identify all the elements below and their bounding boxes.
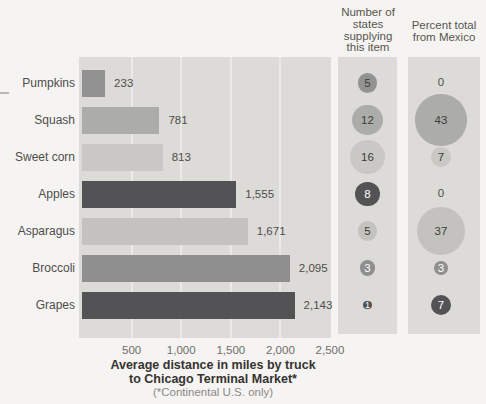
axis-tick: 2,000: [255, 344, 305, 356]
states-bubble: 5: [358, 73, 377, 92]
distance-value: 2,143: [304, 298, 333, 312]
states-bubble: 12: [352, 105, 382, 135]
distance-bar: [82, 107, 159, 134]
states-header-line: this item: [328, 42, 408, 54]
row-label: Broccoli: [0, 260, 75, 276]
row-label: Asparagus: [0, 223, 75, 239]
distance-value: 233: [114, 76, 133, 90]
states-column-header: Number of states supplying this item: [328, 7, 408, 54]
distance-bar: [82, 292, 295, 319]
distance-value: 1,555: [245, 187, 274, 201]
mexico-bubble-zero: 0: [421, 76, 461, 88]
axis-title-block: Average distance in miles by truck to Ch…: [58, 359, 368, 399]
mexico-bubble: 3: [434, 261, 448, 275]
mexico-bubble: 43: [415, 94, 466, 145]
distance-bar: [82, 218, 248, 245]
axis-tick: 1,500: [206, 344, 256, 356]
distance-bar: [82, 144, 163, 171]
mexico-header-line: from Mexico: [404, 32, 484, 44]
mexico-column-header: Percent total from Mexico: [404, 20, 484, 44]
states-bubble: 16: [350, 140, 385, 175]
row-label: Sweet corn: [0, 149, 75, 165]
distance-bar: [82, 70, 105, 97]
chart-footnote: (*Continental U.S. only): [58, 386, 368, 399]
distance-value: 1,671: [257, 224, 286, 238]
distance-bar: [82, 255, 290, 282]
distance-value: 781: [168, 113, 187, 127]
states-bubble: 8: [355, 182, 380, 207]
states-header-line: states: [328, 19, 408, 31]
mexico-bubble-zero: 0: [421, 187, 461, 199]
mexico-bubble: 37: [417, 207, 464, 254]
axis-tick: 1,000: [156, 344, 206, 356]
axis-tick: 2,500: [305, 344, 355, 356]
row-label: Squash: [0, 112, 75, 128]
row-label: Grapes: [0, 297, 75, 313]
states-bubble: 3: [360, 260, 375, 275]
distance-value: 813: [172, 150, 191, 164]
states-bubble: 1: [363, 301, 372, 310]
axis-tick: 500: [107, 344, 157, 356]
states-bubble: 5: [358, 221, 377, 240]
distance-bar: [82, 181, 236, 208]
chart-title-line2: to Chicago Terminal Market*: [58, 373, 368, 387]
row-label: Apples: [0, 186, 75, 202]
scan-artifact-dash: [0, 92, 9, 94]
chart-canvas: Number of states supplying this item Per…: [0, 0, 486, 404]
row-label: Pumpkins: [0, 75, 75, 91]
distance-value: 2,095: [299, 261, 328, 275]
chart-title-line1: Average distance in miles by truck: [58, 359, 368, 373]
